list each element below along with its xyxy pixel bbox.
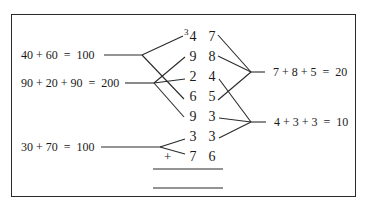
connector-lines (0, 0, 365, 213)
plus-sign: + (164, 149, 171, 165)
tens-digit: 9 (187, 49, 199, 65)
units-digit: 4 (206, 69, 218, 85)
units-digit: 3 (206, 129, 218, 145)
units-digit: 6 (206, 149, 218, 165)
units-digit: 8 (206, 49, 218, 65)
tens-digit: 4 (187, 29, 199, 45)
left-equation-2: 90 + 20 + 90 = 200 (21, 76, 119, 90)
left-equation-3: 30 + 70 = 100 (21, 140, 95, 154)
right-equation-1: 7 + 8 + 5 = 20 (273, 65, 347, 79)
tens-digit: 6 (187, 89, 199, 105)
units-digit: 3 (206, 109, 218, 125)
units-digit: 7 (206, 29, 218, 45)
right-equation-2: 4 + 3 + 3 = 10 (274, 115, 348, 129)
tens-digit: 2 (187, 69, 199, 85)
units-digit: 5 (206, 89, 218, 105)
tens-digit: 9 (187, 109, 199, 125)
tens-digit: 7 (187, 149, 199, 165)
tens-digit: 3 (187, 129, 199, 145)
left-equation-1: 40 + 60 = 100 (21, 48, 95, 62)
